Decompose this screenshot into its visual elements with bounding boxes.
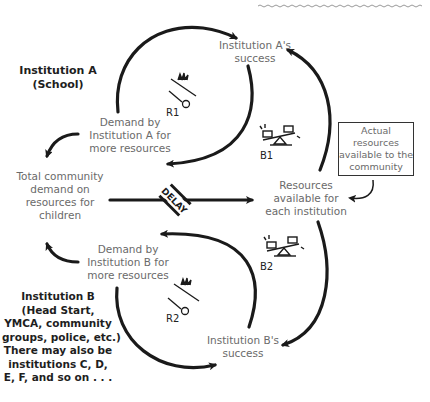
snowball-icon-r2 bbox=[168, 278, 199, 315]
annotation-institution-a: Institution A (School) bbox=[18, 64, 98, 92]
seesaw-icon-b1 bbox=[260, 124, 300, 145]
arrow-successA-to-demandA bbox=[168, 66, 252, 164]
arrow-demandB-to-total bbox=[47, 244, 78, 262]
arrow-demandA-to-total bbox=[47, 134, 78, 156]
node-institution-b-success: Institution B's success bbox=[193, 334, 293, 360]
loop-label-b2: B2 bbox=[260, 261, 273, 272]
loop-label-r2: R2 bbox=[166, 313, 179, 324]
loop-label-b1: B1 bbox=[260, 150, 273, 161]
loop-label-r1: R1 bbox=[166, 107, 179, 118]
node-demand-institution-b: Demand by Institution B for more resourc… bbox=[78, 243, 178, 282]
node-institution-a-success: Institution A's success bbox=[200, 39, 310, 65]
wavy-divider bbox=[258, 5, 422, 7]
snowball-icon-r1 bbox=[169, 73, 196, 108]
node-resources-each-institution: Resources available for each institution bbox=[256, 179, 356, 218]
node-demand-institution-a: Demand by Institution A for more resourc… bbox=[80, 116, 180, 155]
annotation-institution-b: Institution B (Head Start, YMCA, communi… bbox=[2, 290, 114, 385]
seesaw-icon-b2 bbox=[264, 235, 304, 256]
node-total-community-demand: Total community demand on resources for … bbox=[10, 170, 110, 222]
node-actual-resources-box: Actual resources available to the commun… bbox=[338, 122, 414, 176]
delay-marker: DELAY bbox=[158, 183, 192, 217]
arrow-resources-to-successA bbox=[288, 50, 330, 170]
